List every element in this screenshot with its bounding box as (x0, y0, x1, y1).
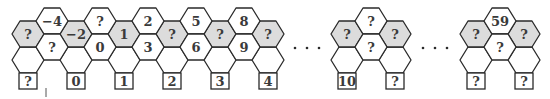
answer-box: 3 (211, 73, 229, 89)
dot (318, 47, 321, 50)
hexagon-label: 1 (119, 27, 128, 42)
hexagon-label: ? (168, 27, 176, 42)
ellipsis-dots (294, 47, 321, 50)
hexagon-label: 8 (239, 14, 248, 29)
hexagon-label: 5 (191, 14, 200, 29)
answer-box: ? (467, 73, 485, 89)
dot (434, 47, 437, 50)
dot (446, 47, 449, 50)
answer-box: 4 (259, 73, 277, 89)
hexagon-label: 0 (95, 40, 104, 55)
hexagon-label: ? (24, 27, 32, 42)
hexagon-pattern-diagram: ??−2011?2?3?4−4??0235689?10????????59? (0, 0, 550, 99)
hexagon-label: 9 (239, 40, 248, 55)
hexagon-label: ? (367, 40, 375, 55)
hexagon-label: ? (496, 40, 504, 55)
hexagon-label: ? (520, 27, 528, 42)
answer-box-label: ? (391, 74, 399, 89)
hexagon-label: 3 (143, 40, 152, 55)
answer-box-label: 0 (71, 74, 80, 89)
hexagon-label: ? (216, 27, 224, 42)
answer-box: 10 (338, 73, 356, 89)
answer-box-label: ? (24, 74, 32, 89)
answer-box-label: 1 (119, 74, 128, 89)
answer-box: ? (19, 73, 37, 89)
answer-box-label: ? (472, 74, 480, 89)
hexagon-label: ? (96, 14, 104, 29)
hexagon-label: ? (264, 27, 272, 42)
dot (306, 47, 309, 50)
hexagon-label: 6 (191, 40, 200, 55)
answer-box-label: 3 (215, 74, 224, 89)
answer-box: 2 (163, 73, 181, 89)
hexagon-label: −4 (42, 14, 62, 29)
answer-box-label: 4 (263, 74, 272, 89)
dot (422, 47, 425, 50)
answer-box-label: 2 (167, 74, 176, 89)
answer-box-label: ? (520, 74, 528, 89)
answer-box: 1 (115, 73, 133, 89)
hexagon-label: ? (48, 40, 56, 55)
hexagon-label: ? (367, 14, 375, 29)
answer-box: ? (386, 73, 404, 89)
answer-box: ? (515, 73, 533, 89)
ellipsis-dots (422, 47, 449, 50)
hexagon-label: ? (343, 27, 351, 42)
diagram-canvas: ??−2011?2?3?4−4??0235689?10????????59? (0, 0, 550, 99)
hexagon-label: 2 (143, 14, 152, 29)
answer-box: 0 (67, 73, 85, 89)
hexagon-label: 59 (491, 14, 509, 29)
hexagon-label: ? (472, 27, 480, 42)
hexagon-label: −2 (66, 27, 86, 42)
answer-box-label: 10 (338, 74, 356, 89)
dot (294, 47, 297, 50)
hexagon-label: ? (391, 27, 399, 42)
